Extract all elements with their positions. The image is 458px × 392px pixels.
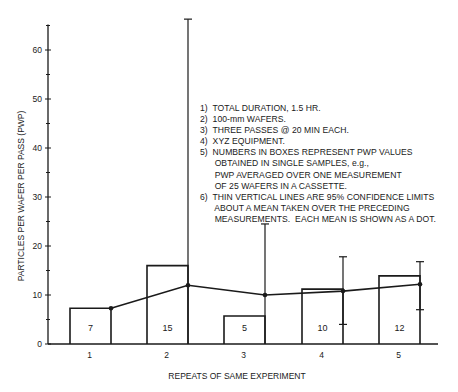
annotation-line: 3) THREE PASSES @ 20 MIN EACH. xyxy=(200,125,436,136)
x-tick-label: 5 xyxy=(396,350,401,360)
bar-value-label: 7 xyxy=(88,323,93,333)
y-tick-label: 30 xyxy=(33,192,43,202)
y-tick-label: 0 xyxy=(37,339,42,349)
bars: 7115253104125 xyxy=(70,266,420,360)
x-axis-title: REPEATS OF SAME EXPERIMENT xyxy=(168,371,305,381)
x-tick-label: 3 xyxy=(241,350,246,360)
mean-dot xyxy=(418,282,423,287)
annotation-line: 1) TOTAL DURATION, 1.5 HR. xyxy=(200,103,436,114)
bar-value-label: 15 xyxy=(162,323,172,333)
y-tick-label: 50 xyxy=(33,94,43,104)
mean-dot xyxy=(341,289,346,294)
y-tick-label: 60 xyxy=(33,45,43,55)
x-tick-label: 4 xyxy=(319,350,324,360)
x-tick-label: 2 xyxy=(164,350,169,360)
annotation-line: 6) THIN VERTICAL LINES ARE 95% CONFIDENC… xyxy=(200,192,436,203)
y-tick-label: 10 xyxy=(33,290,43,300)
annotation-line: OF 25 WAFERS IN A CASSETTE. xyxy=(200,181,436,192)
x-tick-label: 1 xyxy=(87,350,92,360)
mean-dot xyxy=(186,283,191,288)
bar-box xyxy=(302,289,343,344)
annotation-line: ABOUT A MEAN TAKEN OVER THE PRECEDING xyxy=(200,203,436,214)
annotation-line: 4) XYZ EQUIPMENT. xyxy=(200,136,436,147)
mean-dot xyxy=(109,306,114,311)
annotation-line: 2) 100-mm WAFERS. xyxy=(200,114,436,125)
annotation-line: 5) NUMBERS IN BOXES REPRESENT PWP VALUES xyxy=(200,147,436,158)
annotation-notes: 1) TOTAL DURATION, 1.5 HR.2) 100-mm WAFE… xyxy=(200,103,436,225)
y-tick-label: 40 xyxy=(33,143,43,153)
bar-value-label: 10 xyxy=(317,323,327,333)
annotation-line: PWP AVERAGED OVER ONE MEASUREMENT xyxy=(200,170,436,181)
annotation-line: OBTAINED IN SINGLE SAMPLES, e.g., xyxy=(200,158,436,169)
mean-dot xyxy=(263,293,268,298)
bar-value-label: 12 xyxy=(394,323,404,333)
y-axis-title: PARTICLES PER WAFER PER PASS (PWP) xyxy=(16,111,26,282)
annotation-line: MEASUREMENTS. EACH MEAN IS SHOWN AS A DO… xyxy=(200,214,436,225)
bar-value-label: 5 xyxy=(242,323,247,333)
y-tick-label: 20 xyxy=(33,241,43,251)
